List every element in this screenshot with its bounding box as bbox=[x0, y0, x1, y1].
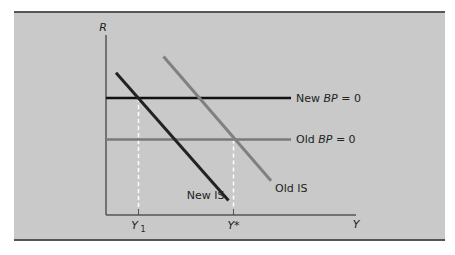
old-is-line bbox=[164, 57, 272, 181]
old-is-label: Old IS bbox=[275, 182, 307, 195]
new-is-label: New IS bbox=[187, 189, 225, 202]
tick-label-y1: Y 1 bbox=[131, 219, 145, 234]
is-bp-diagram: RYY 1Y*New BP = 0Old BP = 0New ISOld IS bbox=[0, 0, 455, 255]
new-bp-label: New BP = 0 bbox=[296, 92, 361, 105]
x-axis-label: Y bbox=[353, 218, 361, 231]
y-axis-label: R bbox=[99, 21, 107, 34]
new-is-line bbox=[116, 73, 229, 201]
old-bp-label: Old BP = 0 bbox=[296, 133, 356, 146]
tick-label-ystar: Y* bbox=[227, 219, 240, 232]
